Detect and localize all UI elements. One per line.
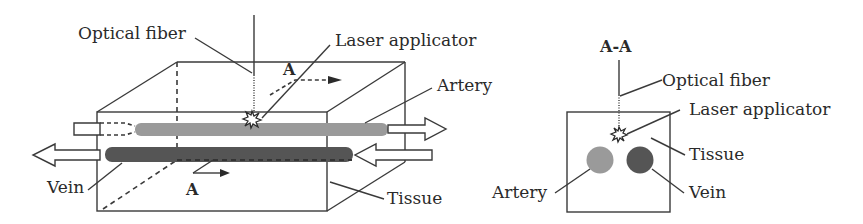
laser-tissue-diagram: A A Optical fiber Laser applicator Arter…: [0, 0, 863, 224]
label-tissue: Tissue: [387, 188, 442, 208]
section-marker-bottom: A: [185, 160, 230, 199]
section-label-vein: Vein: [688, 182, 726, 202]
section-label-artery: Artery: [491, 182, 547, 202]
section-marker-top: A: [270, 60, 342, 95]
cross-section-view: A-A Optical fiber Laser applicator Tissu…: [491, 37, 831, 212]
label-artery: Artery: [436, 75, 492, 95]
section-label-tissue: Tissue: [689, 144, 744, 164]
artery-vessel: [100, 123, 388, 136]
artery-cross-section: [587, 147, 614, 174]
laser-applicator-icon-section: [611, 127, 627, 142]
cross-section-title: A-A: [599, 37, 632, 56]
label-optical-fiber: Optical fiber: [78, 23, 187, 43]
label-laser-applicator: Laser applicator: [335, 30, 477, 50]
section-label-laser-applicator: Laser applicator: [689, 99, 831, 119]
section-label-a-top: A: [282, 60, 296, 79]
artery-inflow-arrow: [74, 123, 100, 135]
section-label-optical-fiber: Optical fiber: [662, 70, 771, 90]
vein-vessel: [105, 147, 353, 162]
label-vein: Vein: [46, 177, 84, 197]
vein-inflow-arrow: [355, 144, 432, 166]
section-label-a-bottom: A: [185, 180, 199, 199]
vein-cross-section: [627, 147, 654, 174]
tissue-block-3d: [97, 62, 405, 211]
vein-outflow-arrow: [33, 144, 100, 166]
artery-outflow-arrow: [388, 118, 446, 140]
